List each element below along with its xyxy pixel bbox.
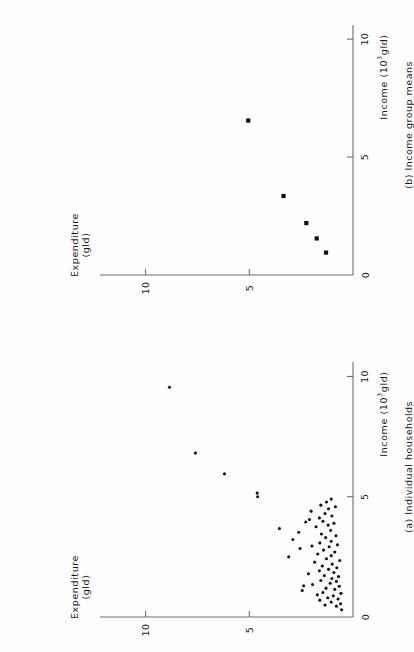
data-point	[337, 597, 340, 600]
data-point	[320, 532, 323, 535]
data-point	[330, 540, 333, 543]
data-point	[304, 221, 308, 225]
data-point	[223, 472, 226, 475]
data-point	[278, 527, 281, 530]
data-point	[339, 592, 342, 595]
income-axis-title: Income (103gld)	[376, 371, 389, 456]
data-point	[339, 602, 342, 605]
data-point	[256, 492, 259, 495]
data-point	[335, 566, 338, 569]
data-point	[313, 561, 316, 564]
data-point	[315, 236, 319, 240]
data-point	[330, 498, 333, 501]
data-point	[325, 500, 328, 503]
data-point	[297, 531, 300, 534]
data-point	[319, 504, 322, 507]
data-point	[304, 520, 307, 523]
panel-caption: (a) Individual households	[403, 401, 414, 533]
data-point	[322, 549, 325, 552]
income-tick-label: 10	[360, 370, 371, 383]
data-point	[307, 572, 310, 575]
expenditure-tick-label: 10	[140, 282, 151, 295]
data-point	[287, 555, 290, 558]
data-point	[168, 386, 171, 389]
data-point	[333, 550, 336, 553]
data-point	[325, 557, 328, 560]
data-point	[324, 587, 327, 590]
data-point	[335, 580, 338, 583]
data-point	[332, 594, 335, 597]
data-point	[330, 601, 333, 604]
data-point	[338, 559, 341, 562]
data-point	[332, 522, 335, 525]
data-point	[318, 541, 321, 544]
data-point	[318, 599, 321, 602]
data-point	[333, 588, 336, 591]
figure-container: 0510510Income (103gld)Expenditure(gld)(b…	[0, 0, 414, 652]
data-point	[329, 529, 332, 532]
expenditure-axis-title: Expenditure(gld)	[69, 213, 91, 277]
data-point	[327, 524, 330, 527]
data-point	[337, 575, 340, 578]
data-point	[327, 507, 330, 510]
data-point	[246, 118, 250, 122]
data-point	[311, 583, 314, 586]
panel-caption: (b) Income group means	[403, 61, 414, 189]
data-point	[302, 584, 305, 587]
data-point	[323, 512, 326, 515]
data-point	[324, 250, 328, 254]
data-point	[318, 569, 321, 572]
data-point	[281, 194, 285, 198]
data-point	[338, 585, 341, 588]
data-point	[326, 596, 329, 599]
income-tick-label: 5	[360, 493, 371, 499]
data-point	[316, 552, 319, 555]
data-point	[331, 563, 334, 566]
data-point	[291, 538, 294, 541]
data-point	[319, 579, 322, 582]
data-point	[321, 564, 324, 567]
data-point	[301, 589, 304, 592]
data-point	[308, 518, 311, 521]
data-point	[324, 536, 327, 539]
data-point	[321, 591, 324, 594]
income-axis-title: Income (103gld)	[376, 34, 389, 119]
data-point	[194, 451, 197, 454]
income-tick-label: 5	[360, 154, 371, 160]
data-point	[323, 603, 326, 606]
data-point	[335, 605, 338, 608]
income-tick-label: 0	[360, 272, 371, 278]
data-point	[330, 514, 333, 517]
income-tick-label: 0	[360, 614, 371, 620]
panel-panel-a: 0510510Income (103gld)Expenditure(gld)(a…	[69, 362, 414, 636]
data-point	[321, 520, 324, 523]
data-point	[328, 545, 331, 548]
data-point	[310, 510, 313, 513]
expenditure-tick-label: 5	[244, 285, 255, 291]
data-point	[330, 554, 333, 557]
data-point	[323, 574, 326, 577]
data-point	[332, 571, 335, 574]
expenditure-axis-title: Expenditure(gld)	[69, 555, 91, 619]
data-point	[330, 577, 333, 580]
data-point	[336, 543, 339, 546]
income-tick-label: 10	[360, 33, 371, 46]
scatter-figure: 0510510Income (103gld)Expenditure(gld)(b…	[0, 0, 414, 652]
data-point	[299, 547, 302, 550]
data-point	[329, 582, 332, 585]
expenditure-tick-label: 10	[140, 624, 151, 637]
data-point	[315, 525, 318, 528]
data-point	[256, 495, 259, 498]
data-point	[334, 505, 337, 508]
data-point	[334, 534, 337, 537]
data-point	[310, 544, 313, 547]
data-point	[318, 516, 321, 519]
data-point	[327, 568, 330, 571]
data-point	[316, 593, 319, 596]
expenditure-tick-label: 5	[244, 627, 255, 633]
panel-panel-b: 0510510Income (103gld)Expenditure(gld)(b…	[69, 25, 414, 294]
data-point	[340, 608, 343, 611]
